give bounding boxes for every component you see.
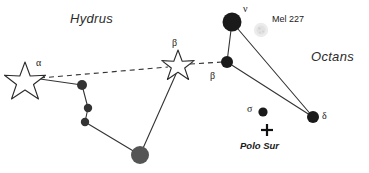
star-label-octans-delta: δ [322,110,327,121]
dashed-beta-to-octans [190,62,223,64]
star-label-octans-nu: ν [243,3,248,14]
pointer-dashed-lines [40,62,223,78]
star-label-octans-beta: β [210,70,215,81]
star-hydrus-gamma [131,146,149,164]
star-label-hydrus-beta: β [172,37,177,48]
star-chart: Hydrus Octans α β ν β δ σ Mel 227 Polo S… [0,0,369,173]
constellation-label-octans: Octans [311,49,354,64]
dashed-alpha-to-beta [40,67,168,78]
star-octans-beta [221,56,233,68]
star-octans-delta [307,111,319,123]
star-hydrus-chain-1 [77,80,87,90]
cluster-mel227-glyph [254,23,268,37]
star-hydrus-chain-2 [84,104,92,112]
line-alpha-to-s1 [40,79,82,85]
line-gamma-to-beta-hydri [140,74,176,155]
star-discs [77,13,319,165]
constellation-label-hydrus: Hydrus [70,11,113,26]
star-octans-nu [223,13,242,32]
outline-star-beta-hydri [162,50,194,80]
star-label-octans-sigma: σ [247,103,252,114]
star-label-hydrus-alpha: α [36,57,41,68]
star-hydrus-chain-3 [81,118,89,126]
line-nu-to-delta [232,22,313,117]
object-label-mel-227: Mel 227 [272,14,304,24]
line-beta-octantis-to-delta [227,62,313,117]
south-pole-cross-icon [261,124,273,136]
sky-canvas [0,0,369,173]
south-pole-label: Polo Sur [240,140,279,151]
star-octans-sigma [258,107,267,116]
line-s3-to-gamma [85,122,140,155]
